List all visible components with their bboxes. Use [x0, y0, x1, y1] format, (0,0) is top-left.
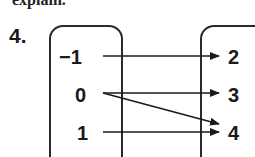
mapping-arrows — [0, 0, 255, 157]
arrow-0-to-4 — [103, 93, 219, 124]
